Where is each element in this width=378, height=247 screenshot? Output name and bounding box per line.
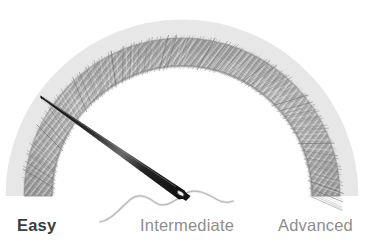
gauge-chart-canvas <box>0 0 378 247</box>
difficulty-gauge-figure: Easy Intermediate Advanced <box>0 0 378 247</box>
gauge-arc <box>0 0 378 247</box>
